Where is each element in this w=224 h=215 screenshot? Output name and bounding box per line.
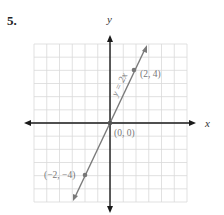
- x-axis-left-arrow-icon: [24, 120, 31, 126]
- line-equation-label: y = 2x: [109, 71, 129, 99]
- line-bottom-arrow-icon: [73, 194, 78, 201]
- coordinate-graph: x y (2, 4) (0, 0) (−2, −4) y = 2x: [0, 0, 224, 215]
- point-origin: [108, 121, 113, 126]
- line-top-arrow-icon: [142, 45, 147, 53]
- x-axis-right-arrow-icon: [189, 120, 196, 126]
- point-label-2-4: (2, 4): [140, 69, 161, 80]
- y-axis-label: y: [106, 13, 112, 25]
- point-2-4: [132, 68, 137, 73]
- point-label-origin: (0, 0): [114, 128, 135, 139]
- x-axis-label: x: [204, 117, 210, 129]
- point-neg2-neg4: [83, 173, 88, 178]
- y-axis-up-arrow-icon: [107, 35, 113, 42]
- point-label-neg2-neg4: (−2, −4): [44, 170, 75, 181]
- y-axis-down-arrow-icon: [107, 206, 113, 213]
